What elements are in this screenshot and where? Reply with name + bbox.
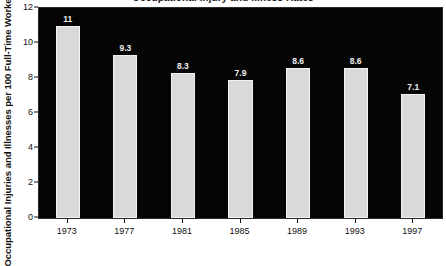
bar-value-label: 7.9	[235, 68, 247, 78]
bar	[228, 80, 252, 218]
y-tick-label: 0	[28, 212, 33, 222]
bar	[286, 68, 310, 219]
bar	[56, 26, 80, 219]
x-tick-mark	[355, 219, 356, 223]
y-tick-label: 6	[28, 107, 33, 117]
x-tick-label: 1989	[287, 226, 307, 236]
x-tick-label: 1993	[345, 226, 365, 236]
x-tick-mark	[297, 219, 298, 223]
bar	[344, 68, 368, 219]
y-tick-label: 8	[28, 72, 33, 82]
x-tick-label: 1973	[57, 226, 77, 236]
x-tick-mark	[67, 219, 68, 223]
bar-value-label: 8.3	[177, 61, 189, 71]
x-tick-mark	[412, 219, 413, 223]
chart-title: Occupational Injury and Illness Rates	[132, 0, 314, 3]
bar-value-label: 9.3	[119, 43, 131, 53]
bar-value-label: 7.1	[407, 82, 419, 92]
y-axis: 024681012	[14, 0, 38, 255]
y-tick-label: 10	[23, 37, 33, 47]
y-tick-label: 2	[28, 177, 33, 187]
x-tick-label: 1981	[172, 226, 192, 236]
bar	[171, 73, 195, 218]
bar	[401, 94, 425, 218]
x-tick-label: 1997	[402, 226, 422, 236]
bar-value-label: 11	[63, 14, 72, 24]
x-tick-label: 1977	[114, 226, 134, 236]
chart-title-clipped: Occupational Injury and Illness Rates	[0, 0, 446, 7]
bar-value-label: 8.6	[292, 56, 304, 66]
y-axis-label-text: Occupational Injuries and Illnesses per …	[2, 0, 13, 266]
bar-value-label: 8.6	[350, 56, 362, 66]
x-tick-mark	[124, 219, 125, 223]
bar	[113, 55, 137, 218]
x-tick-mark	[182, 219, 183, 223]
x-axis: 1973197719811985198919931997	[38, 219, 443, 255]
x-tick-mark	[240, 219, 241, 223]
x-tick-label: 1985	[229, 226, 249, 236]
plot-area: 119.38.37.98.68.67.1	[38, 7, 443, 219]
y-tick-label: 12	[23, 2, 33, 12]
y-axis-label: Occupational Injuries and Illnesses per …	[0, 0, 14, 255]
y-tick-label: 4	[28, 142, 33, 152]
